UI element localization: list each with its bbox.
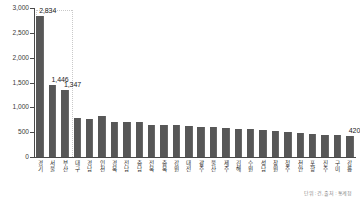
x-category-label: 진주: [322, 160, 328, 171]
bar-rect: [247, 129, 254, 157]
bar[interactable]: [284, 8, 291, 157]
x-category-label: 수원: [248, 160, 254, 171]
bar[interactable]: [210, 8, 217, 157]
y-tick-label: 2,000: [0, 54, 29, 61]
bar-rect: [284, 132, 291, 157]
bar-rect: [309, 134, 316, 157]
x-category-label: 인천: [99, 160, 105, 171]
bar[interactable]: [222, 8, 229, 157]
y-tick-label: 1,000: [0, 103, 29, 110]
bar[interactable]: [160, 8, 167, 157]
y-tick-label: 0: [0, 153, 29, 160]
x-category-label: 창원: [273, 160, 279, 171]
bar[interactable]: [111, 8, 118, 157]
bar-rect: [160, 125, 167, 157]
x-axis-category-labels: 경기서울부산대구경남인천경북전남충남전북충북강원대전광주울산제주김해수원성남창원…: [34, 159, 356, 189]
x-category-label: 경기: [37, 160, 43, 171]
x-category-label: 울산: [211, 160, 217, 171]
y-tick-label: 2,500: [0, 29, 29, 36]
bar[interactable]: [136, 8, 143, 157]
x-category-label: 경남: [87, 160, 93, 171]
bar-rect: [297, 133, 304, 157]
x-category-label: 천안: [297, 160, 303, 171]
bar[interactable]: [309, 8, 316, 157]
bar-rect: [111, 122, 118, 157]
x-category-label: 강릉: [347, 160, 353, 171]
bar-rect: [136, 122, 143, 157]
bar-series: [34, 8, 356, 157]
x-category-label: 광주: [198, 160, 204, 171]
bar[interactable]: [123, 8, 130, 157]
bar[interactable]: [259, 8, 266, 157]
bar-rect: [98, 116, 105, 157]
bar[interactable]: [247, 8, 254, 157]
bar-rect: [123, 122, 130, 157]
x-category-label: 경북: [112, 160, 118, 171]
bar-rect: [173, 125, 180, 157]
bar-rect: [210, 127, 217, 157]
bar[interactable]: [272, 8, 279, 157]
bar-rect: [334, 135, 341, 157]
bar-rect: [49, 85, 56, 157]
y-tick-label: 3,000: [0, 4, 29, 11]
bar[interactable]: [148, 8, 155, 157]
bar-rect: [259, 130, 266, 157]
bar-value-label: 420: [349, 127, 360, 134]
x-category-label: 제주: [223, 160, 229, 171]
bar[interactable]: [297, 8, 304, 157]
bar[interactable]: [334, 8, 341, 157]
bar-rect: [346, 136, 353, 157]
bar-rect: [148, 125, 155, 157]
bar[interactable]: [346, 8, 353, 157]
x-category-label: 구미: [334, 160, 340, 171]
bar-rect: [272, 131, 279, 157]
bar-rect: [61, 90, 68, 157]
bar[interactable]: [98, 8, 105, 157]
bar[interactable]: [86, 8, 93, 157]
bar-value-label: 2,834: [39, 7, 56, 14]
bar[interactable]: [36, 8, 43, 157]
x-category-label: 성남: [260, 160, 266, 171]
y-tick-label: 1,500: [0, 79, 29, 86]
bar-rect: [185, 126, 192, 157]
bar-rect: [235, 129, 242, 157]
x-category-label: 청주: [285, 160, 291, 171]
x-category-label: 부산: [62, 160, 68, 171]
bar[interactable]: [185, 8, 192, 157]
source-note: 단위 : 건, 출처 : 통계청: [304, 189, 352, 196]
bar-rect: [86, 119, 93, 157]
x-axis-line: [34, 157, 356, 158]
x-category-label: 대구: [74, 160, 80, 171]
x-category-label: 전남: [124, 160, 130, 171]
bar[interactable]: [235, 8, 242, 157]
x-category-label: 강원: [173, 160, 179, 171]
x-category-label: 포항: [310, 160, 316, 171]
bar[interactable]: [321, 8, 328, 157]
bar-rect: [197, 127, 204, 157]
x-category-label: 김해: [235, 160, 241, 171]
bar[interactable]: [173, 8, 180, 157]
x-category-label: 충북: [161, 160, 167, 171]
x-category-label: 서울: [50, 160, 56, 171]
x-category-label: 대전: [186, 160, 192, 171]
bar-rect: [74, 118, 81, 157]
x-category-label: 충남: [136, 160, 142, 171]
bar-value-label: 1,347: [64, 81, 81, 88]
bar[interactable]: [197, 8, 204, 157]
y-tick-label: 500: [0, 128, 29, 135]
x-category-label: 전북: [149, 160, 155, 171]
bar-rect: [321, 135, 328, 157]
bar-rect: [222, 128, 229, 157]
bar-rect: [36, 16, 43, 157]
